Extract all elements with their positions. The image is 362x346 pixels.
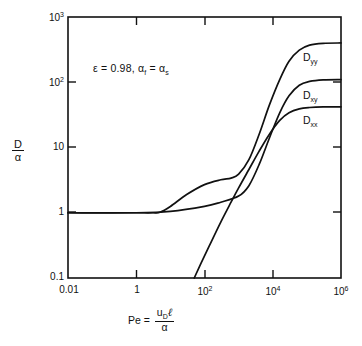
y-tick-label-1000: 103 bbox=[34, 11, 64, 23]
curve-label-dyy: Dyy bbox=[303, 52, 318, 65]
y-tick-label-100: 102 bbox=[34, 76, 64, 88]
curve-label-dxx: Dxx bbox=[303, 115, 318, 128]
y-axis-label: D α bbox=[12, 138, 24, 164]
y-tick-label-1: 1 bbox=[34, 207, 64, 217]
x-axis-numerator: uDℓ bbox=[155, 306, 175, 322]
plot-annotation: ε = 0.98, αf = αs bbox=[93, 63, 169, 76]
y-axis-ticks bbox=[68, 82, 341, 212]
annotation-epsilon: ε = 0.98, bbox=[93, 62, 135, 74]
x-tick-label-100: 102 bbox=[185, 285, 225, 297]
y-axis-denominator: α bbox=[12, 151, 24, 163]
curve-label-dxy: Dxy bbox=[303, 90, 318, 103]
y-tick-label-0.1: 0.1 bbox=[28, 272, 64, 282]
y-tick-label-10: 10 bbox=[34, 142, 64, 152]
x-axis-label: Pe = uDℓ α bbox=[128, 306, 174, 334]
x-axis-fraction: uDℓ α bbox=[155, 306, 175, 334]
curve-dxy bbox=[68, 80, 341, 213]
x-axis-ticks bbox=[137, 17, 274, 278]
x-axis-label-prefix: Pe = bbox=[128, 315, 150, 326]
y-axis-numerator: D bbox=[12, 138, 24, 151]
curve-dxx bbox=[194, 107, 341, 278]
x-axis-denominator: α bbox=[155, 322, 175, 334]
x-axis-ell: ℓ bbox=[168, 306, 173, 318]
y-axis-fraction: D α bbox=[12, 138, 24, 164]
data-curves bbox=[68, 43, 341, 278]
x-tick-label-0.01: 0.01 bbox=[48, 285, 90, 295]
x-tick-label-1: 1 bbox=[117, 285, 157, 295]
x-tick-label-10000: 104 bbox=[253, 285, 293, 297]
figure-container: 103 102 10 1 0.1 0.01 1 102 104 106 D α … bbox=[0, 0, 362, 346]
plot-frame bbox=[68, 17, 341, 278]
x-tick-label-1000000: 106 bbox=[321, 285, 361, 297]
